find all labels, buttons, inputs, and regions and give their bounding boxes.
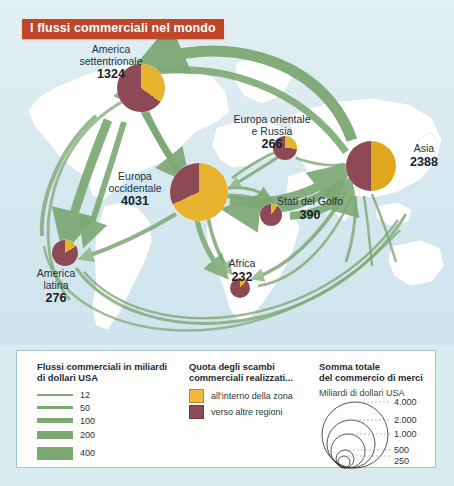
node-label-africa: Africa 232 [214,258,270,285]
flow-value-label: 12 [80,390,90,400]
node-value: 232 [214,270,270,285]
flow-value-label: 50 [80,403,90,413]
node-value: 2388 [400,155,448,170]
node-name-line1: Asia [414,142,434,154]
node-name-line1: Europa orientale [233,113,310,125]
legend-flows-title: Flussi commerciali in miliardi di dollar… [37,362,187,384]
legend-flows-title-line1: Flussi commerciali in miliardi [37,362,167,372]
node-label-europa-orientale-russia: Europa orientale e Russia 266 [212,114,332,152]
legend-share-item-outward: verso altre regioni [189,404,319,419]
legend-flows-title-line2: di dollari USA [37,373,98,383]
node-name-line1: Europa [118,170,152,182]
flow-width-swatch [37,406,73,409]
legend-panel: Flussi commerciali in miliardi di dollar… [16,350,436,468]
node-label-stati-del-golfo: Stati del Golfo 390 [262,196,358,223]
node-value: 266 [212,137,332,152]
node-name-line1: America [37,267,76,279]
page-title: I flussi commerciali nel mondo [22,19,224,39]
flow-value-label: 100 [80,416,95,426]
pie-america-latina [52,240,78,266]
node-label-europa-occidentale: Europa occidentale 4031 [96,171,174,209]
legend-share-item-within: all'interno della zona [189,388,319,403]
node-name-line1: Stati del Golfo [277,195,343,207]
flow-width-swatch [37,431,73,439]
legend-share-title-line1: Quota degli scambi [189,362,275,372]
node-name-line2: occidentale [108,182,161,194]
flow-width-swatch [37,394,73,396]
world-map-panel: I flussi commerciali nel mondo America s… [0,0,454,345]
pie-europa-occidentale [170,163,228,221]
swatch-within-zone [189,389,204,403]
legend-circle-label-500: 500 [394,445,409,455]
legend-share-label: verso altre regioni [211,407,283,417]
legend-circle-label-4000: 4.000 [394,397,417,407]
legend-flow-item: 50 [37,401,187,414]
node-label-america-latina: America latina 276 [15,268,97,306]
legend-circles-title-line2: del commercio di merci [319,373,423,383]
legend-flows: Flussi commerciali in miliardi di dollar… [37,362,187,463]
flow-value-label: 400 [80,448,95,458]
legend-circle-label-250: 250 [394,456,409,466]
legend-flow-item: 12 [37,388,187,401]
flow-value-label: 200 [80,430,95,440]
node-label-asia: Asia 2388 [400,143,448,170]
infographic-trade-flows: I flussi commerciali nel mondo America s… [0,0,454,486]
legend-share-title-line2: commerciali realizzati... [189,373,293,383]
legend-flow-item: 400 [37,443,187,463]
node-value: 1324 [56,67,166,82]
node-value: 276 [15,291,97,306]
legend-circle-label-1000: 1.000 [394,429,417,439]
node-value: 4031 [96,194,174,209]
swatch-other-regions [189,405,204,419]
pie-asia [346,141,396,191]
legend-share-label: all'interno della zona [211,391,293,401]
node-value: 390 [262,208,358,223]
flow-width-swatch [37,447,73,460]
flow-width-swatch [37,418,73,423]
legend-share: Quota degli scambi commerciali realizzat… [189,362,319,419]
legend-circle-1000 [331,434,365,468]
node-name-line2: e Russia [252,125,293,137]
legend-circle-sizes: Somma totale del commercio di merci Mili… [319,362,435,401]
legend-flow-item: 100 [37,414,187,427]
node-name-line1: Africa [229,257,256,269]
node-name-line2: settentrionale [79,55,142,67]
legend-circles-title-line1: Somma totale [319,362,380,372]
node-label-america-settentrionale: America settentrionale 1324 [56,44,166,82]
legend-circles-title: Somma totale del commercio di merci [319,362,435,384]
node-name-line1: America [92,43,131,55]
legend-circle-label-2000: 2.000 [394,415,417,425]
node-name-line2: latina [43,279,68,291]
legend-circles-graphic: 4.000 2.000 1.000 500 250 [319,396,435,470]
legend-flow-item: 200 [37,427,187,443]
legend-share-title: Quota degli scambi commerciali realizzat… [189,362,319,384]
